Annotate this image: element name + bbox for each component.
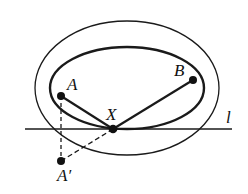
label-a-prime: A′ — [56, 166, 71, 185]
point-x — [109, 125, 118, 134]
label-b: B — [174, 61, 185, 80]
geometry-diagram: A B X A′ l — [0, 0, 248, 194]
label-a: A — [66, 75, 78, 94]
dashed-segment-a-prime-x — [61, 129, 113, 161]
label-x: X — [105, 105, 117, 124]
point-a-prime — [57, 157, 65, 165]
outer-ellipse — [35, 21, 219, 155]
point-a — [57, 92, 65, 100]
segment-x-b — [113, 80, 193, 129]
point-b — [189, 76, 197, 84]
label-line-l: l — [226, 108, 231, 127]
